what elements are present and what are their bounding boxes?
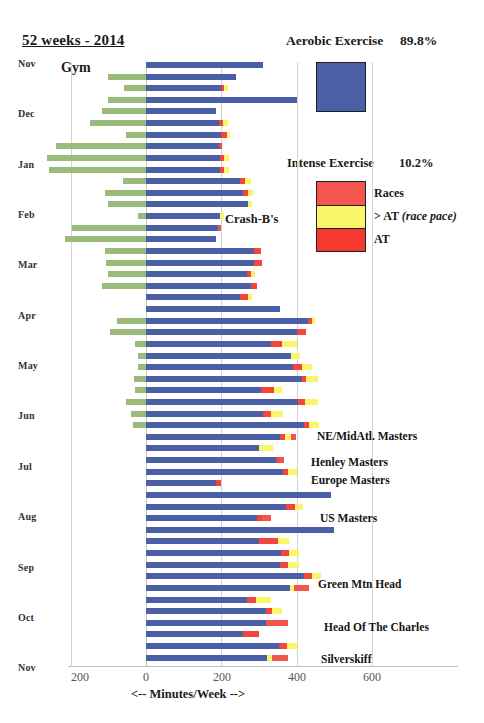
bar-segment-aerobic [146,271,247,277]
bar-segment-gym [49,167,146,173]
bar-segment-gym [131,411,146,417]
bar-segment-over [312,318,316,324]
bar-segment-over [302,364,313,370]
bar-segment-race [218,225,221,231]
bar-segment-at [297,329,306,335]
bar-segment-gym [105,190,146,196]
legend-swatch-at [317,228,365,251]
bar-segment-over [309,422,320,428]
bar-segment-over [278,538,289,544]
bar-row [0,108,484,114]
bar-segment-gym [102,108,146,114]
legend-swatch-over-at [317,205,365,228]
legend-swatch-aerobic [316,62,366,112]
bar-row [0,329,484,335]
bar-segment-aerobic [146,213,220,219]
bar-segment-aerobic [146,283,251,289]
bar-row [0,143,484,149]
bar-segment-at [280,562,288,568]
bar-segment-at [286,504,295,510]
bar-rows [0,0,484,723]
bar-row [0,236,484,242]
bar-segment-aerobic [146,655,267,661]
bar-row [0,318,484,324]
bar-row [0,167,484,173]
bar-row [0,643,484,649]
bar-segment-aerobic [146,573,304,579]
bar-segment-aerobic [146,387,261,393]
bar-segment-aerobic [146,376,302,382]
bar-segment-gym [138,353,146,359]
bar-segment-aerobic [146,562,280,568]
bar-segment-over [259,445,273,451]
bar-segment-aerobic [146,434,280,440]
bar-segment-over [251,271,255,277]
bar-segment-gym [126,132,146,138]
bar-segment-gym [135,341,146,347]
bar-segment-over [223,120,228,126]
bar-row [0,283,484,289]
bar-segment-race [294,585,309,591]
bar-segment-aerobic [146,504,286,510]
bar-row [0,573,484,579]
bar-row [0,515,484,521]
bar-segment-aerobic [146,597,247,603]
bar-row [0,631,484,637]
bar-segment-at [251,283,257,289]
bar-row [0,225,484,231]
bar-row [0,85,484,91]
bar-segment-aerobic [146,167,220,173]
bar-segment-at [247,597,256,603]
bar-segment-aerobic [146,469,283,475]
bar-segment-aerobic [146,108,216,114]
bar-segment-gym [117,318,146,324]
bar-segment-aerobic [146,538,259,544]
bar-segment-over [287,643,297,649]
bar-segment-gym [123,178,146,184]
bar-segment-aerobic [146,85,221,91]
bar-segment-aerobic [146,190,243,196]
bar-row [0,62,484,68]
bar-segment-over [289,550,299,556]
bar-segment-over [274,387,282,393]
bar-row [0,306,484,312]
bar-row [0,411,484,417]
bar-segment-aerobic [146,643,279,649]
bar-segment-race [272,655,288,661]
bar-row [0,120,484,126]
bar-row [0,376,484,382]
bar-row [0,620,484,626]
bar-row [0,353,484,359]
bar-segment-at [254,260,262,266]
bar-segment-at [279,643,287,649]
legend-intense-swatches [316,181,366,252]
bar-segment-aerobic [146,294,240,300]
bar-segment-aerobic [146,260,254,266]
bar-segment-at [261,387,274,393]
bar-segment-aerobic [146,143,219,149]
bar-segment-at [219,143,222,149]
bar-segment-aerobic [146,457,276,463]
bar-segment-over [224,85,229,91]
bar-segment-at [271,341,282,347]
bar-segment-aerobic [146,329,297,335]
bar-segment-aerobic [146,585,290,591]
bar-segment-aerobic [146,178,240,184]
bar-segment-at [281,550,289,556]
bar-segment-over [224,167,229,173]
bar-row [0,585,484,591]
bar-segment-gym [105,248,146,254]
bar-segment-gym [138,364,146,370]
bar-segment-gym [133,422,146,428]
bar-row [0,364,484,370]
bar-row [0,201,484,207]
bar-row [0,445,484,451]
bar-row [0,260,484,266]
bar-segment-race [279,457,284,463]
bar-segment-gym [102,283,146,289]
bar-segment-aerobic [146,631,243,637]
bar-row [0,190,484,196]
bar-segment-aerobic [146,306,280,312]
bar-segment-aerobic [146,62,263,68]
bar-segment-gym [135,387,146,393]
